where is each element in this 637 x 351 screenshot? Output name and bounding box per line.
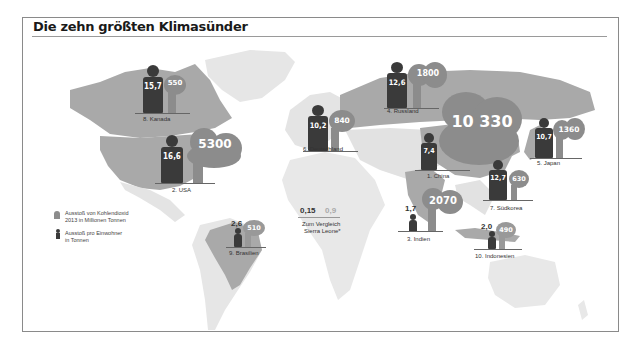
russia-per-capita-figure: 12,6	[386, 62, 408, 108]
south-korea-label: 7. Südkorea	[490, 205, 522, 211]
russia-per-capita-value: 12,6	[386, 78, 408, 87]
germany-co2-cloud: 840	[327, 108, 357, 151]
china-co2-cloud: 10 330	[437, 92, 527, 167]
legend-co2-total-line1: Ausstoß von Kohlendioxid	[65, 210, 129, 217]
brazil-co2-value: 510	[243, 224, 265, 232]
china-label: 1. China	[427, 173, 449, 179]
brazil-per-capita-value: 2,6	[231, 219, 242, 228]
new-zealand-shape	[578, 300, 588, 320]
legend-per-capita-line1: Ausstoß pro Einwohner	[65, 230, 122, 237]
south-korea-co2-cloud: 630	[508, 170, 530, 200]
russia-label: 4. Russland	[387, 108, 419, 114]
japan-co2-value: 1360	[553, 125, 585, 134]
world-map	[0, 0, 637, 351]
usa-baseline	[155, 183, 215, 184]
indonesia-label: 10. Indonesien	[475, 253, 514, 259]
china-per-capita-value: 7,4	[420, 147, 438, 155]
legend-co2-total-line2: 2013 in Millionen Tonnen	[65, 217, 126, 224]
japan-per-capita-figure: 10,7	[534, 118, 554, 158]
japan-label: 5. Japan	[537, 160, 560, 166]
south-korea-per-capita-figure: 12,7	[488, 160, 508, 200]
sierra-leone-label-line1: Zum Vergleich	[302, 221, 340, 227]
usa-label: 2. USA	[172, 187, 191, 193]
indonesia-per-capita-figure	[488, 231, 496, 249]
australia-shape	[488, 255, 560, 308]
legend-cloud-icon	[54, 211, 60, 219]
brazil-per-capita-figure	[234, 228, 242, 247]
south-korea-per-capita-value: 12,7	[488, 174, 508, 182]
canada-per-capita-figure: 15,7	[142, 65, 164, 113]
canada-label: 8. Kanada	[143, 116, 170, 122]
china-baseline	[415, 170, 470, 171]
germany-label: 6. Deutschland	[303, 146, 343, 152]
india-co2-cloud: 2070	[422, 188, 464, 232]
sierra-leone-per-capita-value: 0,15	[300, 206, 316, 215]
usa-per-capita-value: 16,6	[160, 152, 184, 161]
japan-baseline	[530, 158, 582, 159]
sierra-leone-label-line2: Sierra Leone*	[304, 228, 341, 234]
indonesia-co2-cloud: 490	[496, 222, 516, 249]
russia-co2-value: 1800	[408, 69, 448, 78]
legend-person-icon	[56, 229, 60, 239]
canada-per-capita-value: 15,7	[142, 82, 164, 91]
usa-per-capita-figure: 16,6	[160, 135, 184, 183]
india-label: 3. Indien	[407, 236, 430, 242]
south-korea-co2-value: 630	[508, 175, 530, 183]
usa-co2-value: 5300	[185, 137, 245, 151]
germany-per-capita-figure: 10,2	[307, 105, 329, 151]
china-co2-value: 10 330	[437, 112, 527, 131]
india-co2-value: 2070	[422, 195, 464, 206]
indonesia-per-capita-value: 2,0	[481, 222, 492, 231]
india-baseline	[398, 231, 443, 232]
south-korea-baseline	[483, 200, 533, 201]
japan-per-capita-value: 10,7	[534, 133, 554, 141]
brazil-label: 9. Brasilien	[229, 250, 259, 256]
greenland-shape	[205, 50, 295, 102]
indonesia-baseline	[474, 249, 522, 250]
indonesia-co2-value: 490	[496, 226, 516, 234]
india-per-capita-value: 1,7	[405, 204, 416, 213]
china-per-capita-figure: 7,4	[420, 133, 438, 170]
usa-co2-cloud: 5300	[185, 128, 245, 183]
canada-co2-value: 550	[162, 79, 188, 87]
germany-per-capita-value: 10,2	[307, 121, 329, 130]
japan-co2-cloud: 1360	[553, 118, 585, 158]
brazil-co2-cloud: 510	[243, 220, 265, 247]
sierra-leone-co2-value: 0,9	[325, 206, 336, 215]
sierra-leone-baseline	[298, 217, 340, 218]
brazil-baseline	[226, 247, 266, 248]
india-per-capita-figure	[409, 214, 417, 232]
canada-co2-cloud: 550	[162, 73, 188, 113]
legend-per-capita-line2: in Tonnen	[65, 237, 89, 244]
canada-baseline	[135, 113, 190, 114]
germany-co2-value: 840	[327, 116, 357, 125]
